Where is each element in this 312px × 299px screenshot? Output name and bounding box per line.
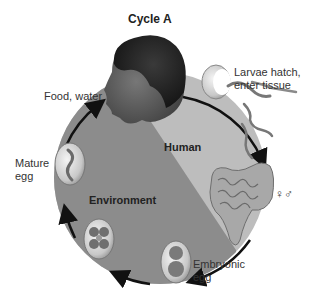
- environment-region-label: Environment: [89, 194, 156, 207]
- diagram-title: Cycle A: [128, 12, 172, 26]
- embryonic-egg-label-line1: Embryonic: [193, 258, 245, 271]
- human-head-illustration: [104, 35, 186, 123]
- larvae-label: Larvae hatch, enter tissue: [234, 66, 301, 92]
- larvae-label-line1: Larvae hatch,: [234, 66, 301, 79]
- mature-egg-label: Mature egg: [15, 157, 49, 183]
- human-region-label: Human: [164, 141, 201, 154]
- cycle-graphic: [0, 0, 312, 299]
- larvae-label-line2: enter tissue: [234, 79, 301, 92]
- cleaving-egg-illustration: [84, 219, 114, 259]
- sex-symbols-label: ♀♂: [275, 188, 293, 201]
- mature-egg-label-line1: Mature: [15, 157, 49, 170]
- food-water-label: Food, water: [44, 90, 102, 103]
- embryonic-egg-label-line2: egg: [193, 271, 245, 284]
- embryonic-egg-illustration: [161, 241, 191, 283]
- mature-egg-label-line2: egg: [15, 170, 49, 183]
- mature-egg-illustration: [55, 143, 85, 185]
- embryonic-egg-label: Embryonic egg: [193, 258, 245, 284]
- life-cycle-diagram: Cycle A Food, water Larvae hatch, enter …: [0, 0, 312, 299]
